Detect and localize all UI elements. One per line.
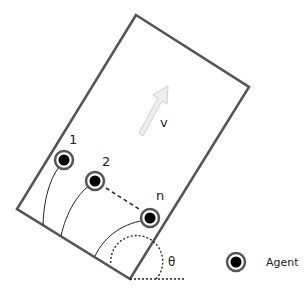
agent-1: [55, 151, 73, 169]
legend-agent-label: Agent: [266, 256, 299, 269]
agent-1-path: [43, 162, 64, 225]
formation-frame: [17, 15, 249, 279]
agent-chain-dashed: [106, 188, 139, 209]
diagram-canvas: v 1 2 n θ Agent: [0, 0, 306, 295]
angle-label: θ: [168, 255, 175, 269]
agent-2: [86, 172, 104, 190]
agent-2-path: [61, 183, 93, 236]
legend-agent-icon: [227, 253, 245, 271]
agent-1-label: 1: [69, 132, 77, 147]
agent-2-label: 2: [102, 154, 110, 169]
agent-n: [141, 209, 159, 227]
velocity-label: v: [160, 115, 168, 130]
agent-n-label: n: [156, 188, 164, 203]
agent-n-path: [95, 220, 148, 256]
